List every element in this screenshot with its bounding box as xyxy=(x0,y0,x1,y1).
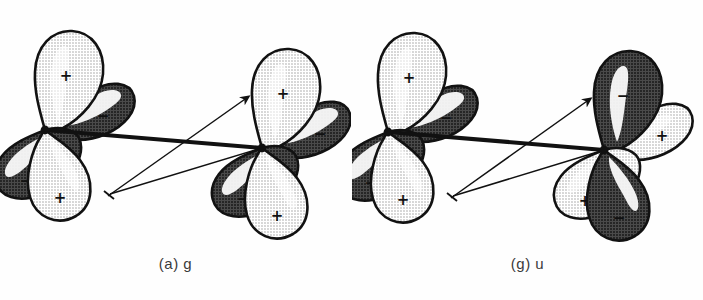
sign-minus: − xyxy=(97,107,110,125)
sign-minus: − xyxy=(440,109,453,127)
sign-plus: + xyxy=(656,127,669,145)
sign-plus: + xyxy=(54,189,67,207)
orbital-symmetry-figure: − + − + xyxy=(0,0,703,300)
left-nucleus xyxy=(384,128,393,137)
sign-plus: + xyxy=(277,85,290,103)
sign-minus: − xyxy=(314,125,327,143)
sign-plus: + xyxy=(397,191,410,209)
right-nucleus xyxy=(600,146,609,155)
sign-plus: + xyxy=(403,69,416,87)
sign-minus: − xyxy=(613,209,626,227)
panel-ungerade-drawing: − + − + xyxy=(352,0,703,250)
panel-gerade: − + − + xyxy=(0,0,351,300)
sign-plus: + xyxy=(60,67,73,85)
sign-plus: + xyxy=(271,207,284,225)
panel-gerade-drawing: − + − + xyxy=(0,0,351,250)
left-nucleus xyxy=(41,126,50,135)
right-nucleus xyxy=(258,144,267,153)
panel-ungerade: − + − + xyxy=(352,0,703,300)
sign-minus: − xyxy=(617,87,630,105)
panel-gerade-caption: (a) g xyxy=(0,255,351,272)
panel-ungerade-caption: (g) u xyxy=(352,255,703,272)
